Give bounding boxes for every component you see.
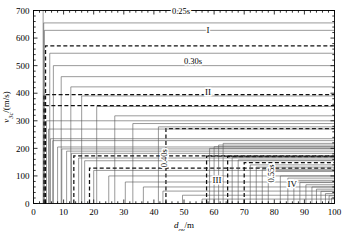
label-0-40s: 0.40s [159, 149, 169, 167]
x-tick-label-60: 60 [210, 207, 220, 217]
y-tick-label-500: 500 [16, 61, 30, 71]
x-tick-label-70: 70 [240, 207, 250, 217]
chart-figure: 0102030405060708090100010020030040050060… [0, 0, 346, 231]
x-tick-label-80: 80 [270, 207, 280, 217]
y-tick-label-200: 200 [16, 144, 30, 154]
region-label-IV: IV [288, 179, 298, 189]
y-tick-label-300: 300 [16, 116, 30, 126]
x-tick-label-20: 20 [89, 207, 99, 217]
x-tick-label-30: 30 [119, 207, 129, 217]
y-tick-label-600: 600 [16, 33, 30, 43]
region-label-III: III [213, 175, 222, 185]
label-0-25s: 0.25s [172, 6, 190, 16]
x-tick-label-100: 100 [328, 207, 342, 217]
y-tick-label-400: 400 [16, 88, 30, 98]
y-tick-label-0: 0 [25, 199, 30, 209]
x-axis-label: dov/m [174, 220, 194, 232]
label-0-30s: 0.30s [184, 56, 202, 66]
x-tick-label-40: 40 [149, 207, 159, 217]
region-label-I: I [207, 25, 210, 35]
label-0-55s: 0.55s [266, 164, 276, 182]
chart-svg: 0102030405060708090100010020030040050060… [0, 0, 346, 231]
x-tick-label-0: 0 [31, 207, 36, 217]
y-tick-label-100: 100 [16, 171, 30, 181]
x-tick-label-50: 50 [180, 207, 190, 217]
y-tick-label-700: 700 [16, 6, 30, 16]
x-tick-label-90: 90 [300, 207, 310, 217]
x-tick-label-10: 10 [59, 207, 69, 217]
region-label-II: II [205, 87, 211, 97]
